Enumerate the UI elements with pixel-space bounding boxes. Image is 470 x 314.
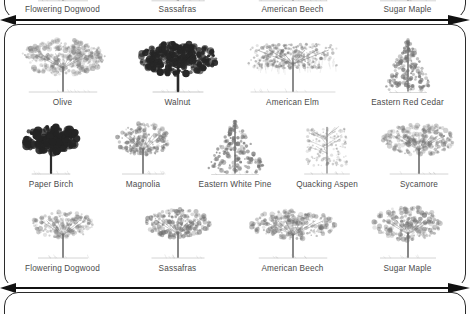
- tree-label: American Beech: [261, 5, 323, 14]
- tree-label: Sassafras: [159, 5, 197, 14]
- main-reference-card[interactable]: OliveWalnutAmerican ElmEastern Red Cedar…: [4, 24, 466, 288]
- tree-row-1: OliveWalnutAmerican ElmEastern Red Cedar: [5, 31, 465, 107]
- tree-entry[interactable]: American Beech: [235, 195, 350, 273]
- tree-entry[interactable]: Flowering Dogwood: [5, 195, 120, 273]
- tree-entry[interactable]: Eastern Red Cedar: [350, 31, 465, 107]
- tree-label: Eastern White Pine: [199, 180, 272, 189]
- tree-illustration-broadleaf-sparse: [15, 0, 111, 4]
- tree-illustration-broadleaf-dense: [130, 203, 226, 263]
- reference-card-stack: Flowering DogwoodSassafrasAmerican Beech…: [0, 0, 470, 314]
- tree-row-2: Paper BirchMagnoliaEastern White PineQua…: [5, 111, 465, 189]
- tree-label: American Elm: [266, 98, 319, 107]
- tree-label: Sassafras: [159, 264, 197, 273]
- card-edge-line-top: [12, 19, 458, 21]
- tree-entry[interactable]: American Elm: [235, 31, 350, 107]
- tree-illustration-broadleaf-dense: [130, 0, 226, 4]
- tree-illustration-vase-weeping-wide: [245, 37, 341, 97]
- tree-label: Flowering Dogwood: [25, 5, 100, 14]
- tree-illustration-broadleaf-round: [360, 0, 456, 4]
- tree-label: Eastern Red Cedar: [371, 98, 444, 107]
- tree-entry[interactable]: American Beech: [235, 0, 350, 14]
- tree-label: Magnolia: [126, 180, 160, 189]
- tree-entry[interactable]: Olive: [5, 31, 120, 107]
- tree-entry[interactable]: Sycamore: [373, 111, 465, 189]
- next-reference-card[interactable]: [4, 292, 466, 314]
- tree-entry[interactable]: Sugar Maple: [350, 0, 465, 14]
- tree-entry[interactable]: Sugar Maple: [350, 195, 465, 273]
- tree-illustration-broadleaf-dark-dome: [130, 37, 226, 97]
- tree-entry[interactable]: Quacking Aspen: [281, 111, 373, 189]
- tree-illustration-broadleaf-leafy-upright: [100, 119, 186, 179]
- tree-entry[interactable]: Walnut: [120, 31, 235, 107]
- tree-entry[interactable]: Magnolia: [97, 111, 189, 189]
- tree-entry[interactable]: Paper Birch: [5, 111, 97, 189]
- tree-illustration-slender-open: [284, 119, 370, 179]
- tree-illustration-broadleaf-round: [360, 203, 456, 263]
- tree-illustration-silhouette-dark: [8, 119, 94, 179]
- tree-illustration-broadleaf-wide: [245, 203, 341, 263]
- tree-label: Sycamore: [400, 180, 438, 189]
- tree-illustration-broadleaf-sparse: [15, 203, 111, 263]
- tree-illustration-broadleaf-wide: [245, 0, 341, 4]
- tree-entry[interactable]: Sassafras: [120, 0, 235, 14]
- tree-illustration-conifer-narrow: [360, 37, 456, 97]
- tree-label: Paper Birch: [29, 180, 73, 189]
- tree-label: Flowering Dogwood: [25, 264, 100, 273]
- tree-row-3: Flowering DogwoodSassafrasAmerican Beech…: [5, 195, 465, 273]
- tree-label: Sugar Maple: [383, 5, 431, 14]
- tree-illustration-broadleaf-cloud-light: [15, 37, 111, 97]
- tree-entry[interactable]: Flowering Dogwood: [5, 0, 120, 14]
- tree-illustration-broadleaf-spread: [376, 119, 462, 179]
- tree-entry[interactable]: Sassafras: [120, 195, 235, 273]
- tree-illustration-conifer-broad: [192, 119, 278, 179]
- tree-row-previous: Flowering DogwoodSassafrasAmerican Beech…: [5, 0, 465, 14]
- tree-label: American Beech: [261, 264, 323, 273]
- tree-label: Olive: [53, 98, 72, 107]
- card-edge-line-bottom: [12, 287, 458, 289]
- tree-entry[interactable]: Eastern White Pine: [189, 111, 281, 189]
- tree-label: Walnut: [164, 98, 190, 107]
- tree-label: Sugar Maple: [383, 264, 431, 273]
- tree-label: Quacking Aspen: [296, 180, 358, 189]
